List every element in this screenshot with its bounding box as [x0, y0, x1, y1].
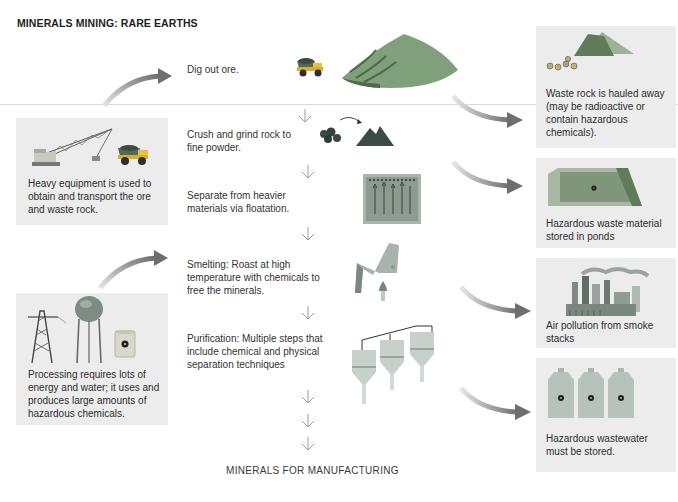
- step-crush-label: Crush and grind rock to fine powder.: [187, 128, 307, 154]
- final-output-label: MINERALS FOR MANUFACTURING: [226, 465, 399, 476]
- radioactive-jugs-icon: [548, 368, 636, 420]
- smelter-furnace-icon: [353, 243, 401, 303]
- water-tower-icon: [72, 295, 106, 365]
- curved-arrow-to-air-pollution: [457, 283, 535, 323]
- curved-arrow-to-waste-rock: [449, 92, 527, 132]
- power-tower-icon: [24, 303, 66, 365]
- down-arrow-icon: [300, 436, 316, 452]
- output-box-waste-ponds: Hazardous waste material stored in ponds: [536, 158, 676, 248]
- curved-arrow-equipment-to-dig: [96, 64, 176, 110]
- output-box-air-pollution: Air pollution from smoke stacks: [536, 258, 676, 348]
- output-box-waste-ponds-text: Hazardous waste material stored in ponds: [546, 217, 674, 243]
- output-box-wastewater-text: Hazardous wastewater must be stored.: [546, 432, 672, 458]
- down-arrow-icon: [300, 413, 316, 429]
- rocks-to-powder-icon: [318, 112, 394, 148]
- output-box-wastewater: Hazardous wastewater must be stored.: [536, 358, 676, 472]
- output-box-air-pollution-text: Air pollution from smoke stacks: [546, 319, 674, 345]
- curved-arrow-to-waste-ponds: [449, 158, 527, 198]
- step-smelt-label: Smelting: Roast at high temperature with…: [187, 258, 327, 297]
- down-arrow-icon: [297, 108, 313, 124]
- down-arrow-icon: [300, 389, 316, 405]
- curved-arrow-processing-to-smelt: [92, 246, 172, 292]
- down-arrow-icon: [300, 226, 316, 242]
- factory-smokestacks-icon: [562, 264, 652, 320]
- step-separate-label: Separate from heavier materials via floa…: [187, 189, 317, 215]
- down-arrow-icon: [300, 164, 316, 180]
- mine-truck-icon: [295, 56, 325, 78]
- step-purify-label: Purification: Multiple steps that includ…: [187, 332, 332, 371]
- output-box-waste-rock: Waste rock is hauled away (may be radioa…: [536, 26, 676, 148]
- input-box-equipment-text: Heavy equipment is used to obtain and tr…: [28, 177, 162, 216]
- input-box-processing-text: Processing requires lots of energy and w…: [28, 368, 166, 420]
- input-box-processing: Processing requires lots of energy and w…: [16, 293, 168, 425]
- dump-truck-icon: [116, 142, 152, 166]
- diagram-title: MINERALS MINING: RARE EARTHS: [17, 17, 198, 29]
- open-pit-mine-pile-icon: [340, 32, 460, 90]
- tailings-pond-icon: [546, 166, 646, 208]
- separation-tanks-icon: [350, 318, 442, 406]
- output-box-waste-rock-text: Waste rock is hauled away (may be radioa…: [546, 87, 672, 139]
- curved-arrow-to-wastewater: [457, 384, 535, 424]
- input-box-equipment: Heavy equipment is used to obtain and tr…: [16, 118, 168, 225]
- floatation-tank-icon: [363, 174, 421, 224]
- waste-rock-pile-icon: [544, 30, 644, 74]
- radioactive-barrel-icon: [114, 329, 136, 359]
- dragline-excavator-icon: [30, 126, 114, 168]
- step-dig-label: Dig out ore.: [187, 63, 307, 76]
- down-arrow-icon: [300, 305, 316, 321]
